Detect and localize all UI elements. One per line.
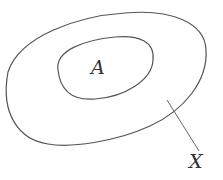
- outer-set-boundary: [6, 12, 206, 145]
- set-diagram: A X: [0, 0, 223, 180]
- outer-set-label: X: [187, 150, 204, 172]
- inner-set-label: A: [89, 56, 105, 78]
- inner-set-boundary: [58, 37, 153, 100]
- label-leader-line: [167, 100, 199, 151]
